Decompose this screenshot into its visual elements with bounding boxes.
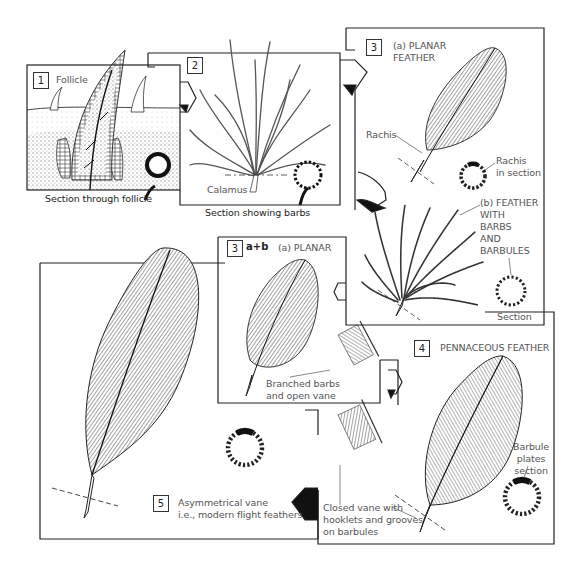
- feather-evolution-diagram: [0, 0, 579, 571]
- stage-4-number: 4: [414, 340, 430, 357]
- section-label: Section: [497, 311, 532, 322]
- closed-vane-label: Closed vane with hooklets and grooves on…: [323, 502, 423, 538]
- stage-1-caption: Section through follicle: [45, 193, 152, 204]
- arrow-2-to-3a: [340, 60, 367, 95]
- rachis-section-label: Rachis in section: [496, 155, 541, 179]
- planar-feather-title: (a) PLANAR FEATHER: [393, 40, 446, 64]
- stage-2-caption: Section showing barbs: [205, 207, 310, 218]
- rachis-label: Rachis: [366, 129, 396, 140]
- stage-5-number: 5: [153, 495, 169, 512]
- stage-3ab-suffix: a+b: [246, 241, 268, 252]
- stage-2-number: 2: [187, 57, 203, 74]
- feather-barbs-barbules-title: (b) FEATHER WITH BARBS AND BARBULES: [480, 197, 538, 257]
- stage-3ab-number: 3: [227, 240, 243, 257]
- calamus-label: Calamus: [207, 184, 247, 195]
- asymmetrical-vane-label: Asymmetrical vane i.e., modern flight fe…: [178, 497, 302, 521]
- arrow-3ab-to-4: [388, 370, 402, 398]
- branched-barbs-label: Branched barbs and open vane: [266, 378, 340, 402]
- stage-1-number: 1: [33, 72, 49, 89]
- arrow-2-to-3b: [357, 172, 386, 212]
- stage-1-title: Follicle: [56, 74, 88, 85]
- stage-3-number: 3: [366, 39, 382, 56]
- pennaceous-feather-title: PENNACEOUS FEATHER: [440, 342, 549, 353]
- planar-title: (a) PLANAR: [278, 242, 331, 253]
- stage-1-panel: [27, 50, 180, 200]
- arrow-1-to-2: [180, 82, 196, 112]
- barbule-plates-label: Barbule plates section: [513, 441, 549, 477]
- arrow-3-to-3ab: [334, 283, 346, 300]
